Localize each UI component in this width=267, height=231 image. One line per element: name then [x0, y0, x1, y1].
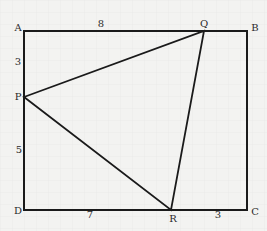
length-label-pd: 5	[16, 145, 22, 155]
length-label-dr: 7	[87, 210, 93, 220]
vertex-label-d: D	[14, 206, 22, 216]
vertex-label-a: A	[14, 23, 21, 33]
vertex-label-c: C	[251, 207, 259, 217]
vertex-label-b: B	[251, 23, 258, 33]
vertex-label-r: R	[169, 214, 177, 224]
length-label-ap: 3	[15, 57, 21, 67]
faint-grid-background	[0, 0, 267, 231]
diagram-canvas: A B C D P Q R 8 3 5 7 3	[0, 0, 267, 231]
geometry-figure	[0, 0, 267, 231]
length-label-rc: 3	[215, 210, 221, 220]
vertex-label-p: P	[15, 92, 22, 102]
vertex-label-q: Q	[200, 19, 208, 29]
length-label-aq: 8	[98, 19, 104, 29]
